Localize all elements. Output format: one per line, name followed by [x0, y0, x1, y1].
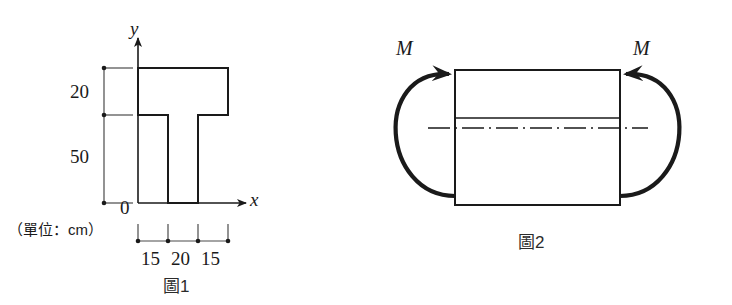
dimension-label-web-depth: 50	[70, 147, 89, 166]
origin-label: 0	[120, 198, 130, 217]
diagram-page: y x 0 20 50 （單位：cm） 15 20 15 圖1 M M 圖2	[0, 0, 732, 305]
moment-arrow-right	[620, 74, 679, 196]
x-axis-label: x	[250, 190, 258, 209]
dimension-dot-top	[102, 66, 107, 71]
unit-note: （單位：cm）	[8, 222, 103, 237]
figure2-caption: 圖2	[518, 234, 544, 251]
figure2-group	[396, 70, 680, 205]
y-axis-label: y	[130, 19, 138, 38]
dimension-label-web-width: 20	[171, 249, 190, 268]
h-dimension-dot-4	[226, 239, 231, 244]
t-section-outline	[138, 68, 228, 203]
moment-arrow-left	[396, 74, 455, 196]
dimension-label-right-overhang: 15	[201, 249, 220, 268]
h-dimension-dot-2	[166, 239, 171, 244]
dimension-label-flange-depth: 20	[70, 82, 89, 101]
diagram-canvas	[0, 0, 732, 305]
dimension-label-left-overhang: 15	[141, 249, 160, 268]
moment-label-left: M	[396, 38, 413, 58]
h-dimension-dot-3	[196, 239, 201, 244]
dimension-dot-bottom	[102, 201, 107, 206]
moment-label-right: M	[633, 38, 650, 58]
dimension-dot-mid	[102, 113, 107, 118]
h-dimension-dot-1	[136, 239, 141, 244]
beam-rectangle	[455, 70, 620, 205]
figure1-caption: 圖1	[163, 278, 189, 295]
